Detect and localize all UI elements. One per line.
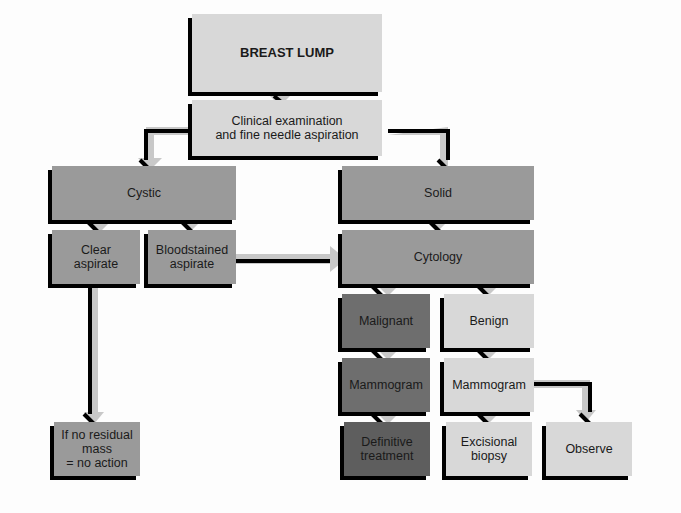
exam-box: Clinical examination and fine needle asp… (192, 100, 382, 156)
bloodstained-label: Bloodstained aspirate (156, 243, 228, 271)
mammogram-malignant-label: Mammogram (349, 378, 423, 392)
observe-label: Observe (565, 442, 612, 456)
flowchart-canvas: BREAST LUMP Clinical examination and fin… (0, 0, 681, 513)
cystic-box: Cystic (52, 166, 236, 220)
definitive-treatment-label: Definitive treatment (361, 435, 414, 463)
no-action-box: If no residual mass = no action (54, 422, 140, 476)
excisional-biopsy-label: Excisional biopsy (461, 435, 517, 463)
no-action-label: If no residual mass = no action (61, 428, 133, 470)
cytology-label: Cytology (414, 250, 463, 264)
cystic-label: Cystic (127, 186, 161, 200)
clear-aspirate-box: Clear aspirate (52, 230, 140, 284)
breast-lump-box: BREAST LUMP (192, 14, 382, 92)
breast-lump-label: BREAST LUMP (240, 46, 334, 60)
malignant-label: Malignant (359, 314, 413, 328)
excisional-biopsy-box: Excisional biopsy (446, 422, 532, 476)
benign-label: Benign (470, 314, 509, 328)
clear-aspirate-label: Clear aspirate (74, 243, 118, 271)
mammogram-benign-box: Mammogram (444, 358, 534, 412)
benign-box: Benign (444, 294, 534, 348)
solid-box: Solid (342, 166, 534, 220)
malignant-box: Malignant (342, 294, 430, 348)
exam-label: Clinical examination and fine needle asp… (215, 114, 358, 142)
observe-box: Observe (546, 422, 632, 476)
cytology-box: Cytology (342, 230, 534, 284)
mammogram-malignant-box: Mammogram (342, 358, 430, 412)
definitive-treatment-box: Definitive treatment (344, 422, 430, 476)
bloodstained-box: Bloodstained aspirate (148, 230, 236, 284)
mammogram-benign-label: Mammogram (452, 378, 526, 392)
solid-label: Solid (424, 186, 452, 200)
